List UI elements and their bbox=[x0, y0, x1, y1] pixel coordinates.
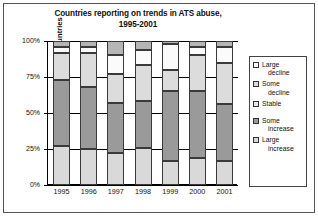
bar-series-group: 1995199619971998199920002001 bbox=[48, 41, 238, 185]
bar-segment[interactable] bbox=[216, 161, 233, 185]
legend-label-line-2: increase bbox=[262, 145, 306, 153]
bar-segment[interactable] bbox=[107, 103, 124, 153]
legend-swatch-icon bbox=[253, 101, 259, 107]
legend-item[interactable]: Someincrease bbox=[253, 117, 306, 133]
bar-column[interactable]: 1998 bbox=[135, 41, 152, 185]
bar-segment[interactable] bbox=[216, 47, 233, 63]
bar-segment[interactable] bbox=[135, 148, 152, 185]
legend-label: Large bbox=[262, 136, 279, 143]
bar-segment[interactable] bbox=[53, 80, 70, 146]
legend-label-line-2: decline bbox=[262, 89, 306, 97]
legend-item[interactable]: Largedecline bbox=[253, 61, 306, 77]
bar-segment[interactable] bbox=[189, 41, 206, 47]
bar-segment[interactable] bbox=[135, 41, 152, 50]
legend-label-line-2: decline bbox=[262, 69, 306, 77]
bar-segment[interactable] bbox=[135, 65, 152, 101]
bar-segment[interactable] bbox=[80, 149, 97, 185]
legend-label: Stable bbox=[262, 100, 281, 107]
legend-label-line-2: increase bbox=[262, 125, 306, 133]
y-axis-tick-label: 75% bbox=[26, 73, 40, 80]
legend-item[interactable]: Stable bbox=[253, 100, 306, 108]
bar-segment[interactable] bbox=[216, 63, 233, 105]
legend-label: Large bbox=[262, 61, 279, 68]
bar-segment[interactable] bbox=[53, 146, 70, 185]
legend-swatch-icon bbox=[253, 81, 259, 87]
x-axis-tick-label: 1995 bbox=[53, 187, 70, 196]
plot-area: 0%25%50%75%100% 199519961997199819992000… bbox=[47, 41, 237, 185]
y-axis-tick-label: 50% bbox=[26, 109, 40, 116]
bar-column[interactable]: 1999 bbox=[162, 41, 179, 185]
legend-label: Some bbox=[262, 80, 280, 87]
bar-segment[interactable] bbox=[107, 74, 124, 103]
x-axis-tick-label: 2000 bbox=[189, 187, 206, 196]
chart-figure: Countries reporting on trends in ATS abu… bbox=[0, 0, 318, 216]
bar-segment[interactable] bbox=[189, 158, 206, 185]
legend-swatch-icon bbox=[253, 118, 259, 124]
bar-column[interactable]: 2000 bbox=[189, 41, 206, 185]
x-axis-tick-label: 1998 bbox=[135, 187, 152, 196]
bar-segment[interactable] bbox=[107, 153, 124, 185]
bar-segment[interactable] bbox=[53, 41, 70, 47]
bar-segment[interactable] bbox=[189, 55, 206, 91]
bar-segment[interactable] bbox=[107, 55, 124, 74]
bar-segment[interactable] bbox=[135, 101, 152, 147]
legend-swatch-icon bbox=[253, 137, 259, 143]
plot-wrapper: Proportion of countries 0%25%50%75%100% … bbox=[47, 41, 237, 185]
bar-segment[interactable] bbox=[189, 47, 206, 56]
y-axis-tick-label: 0% bbox=[30, 181, 40, 188]
bar-segment[interactable] bbox=[53, 47, 70, 53]
x-axis-tick-label: 2001 bbox=[216, 187, 233, 196]
y-axis-tick-label: 25% bbox=[26, 145, 40, 152]
bar-segment[interactable] bbox=[80, 53, 97, 88]
bar-segment[interactable] bbox=[80, 87, 97, 149]
bar-segment[interactable] bbox=[80, 41, 97, 47]
x-axis-tick-label: 1997 bbox=[107, 187, 124, 196]
y-axis-tick-label: 100% bbox=[22, 37, 40, 44]
x-axis-tick-label: 1999 bbox=[162, 187, 179, 196]
bar-segment[interactable] bbox=[162, 41, 179, 44]
bar-segment[interactable] bbox=[162, 161, 179, 185]
bar-segment[interactable] bbox=[162, 70, 179, 92]
bar-segment[interactable] bbox=[216, 41, 233, 47]
y-axis-tick: 0% bbox=[44, 185, 49, 186]
bar-segment[interactable] bbox=[135, 50, 152, 66]
bar-segment[interactable] bbox=[107, 41, 124, 55]
gridline bbox=[48, 185, 238, 186]
chart-legend: LargedeclineSomedeclineStableSomeincreas… bbox=[249, 56, 307, 187]
bar-segment[interactable] bbox=[162, 44, 179, 70]
bar-segment[interactable] bbox=[189, 91, 206, 157]
bar-column[interactable]: 1996 bbox=[80, 41, 97, 185]
bar-segment[interactable] bbox=[53, 53, 70, 80]
chart-title-line-1: Countries reporting on trends in ATS abu… bbox=[54, 9, 221, 18]
bar-column[interactable]: 2001 bbox=[216, 41, 233, 185]
bar-segment[interactable] bbox=[162, 91, 179, 160]
bar-column[interactable]: 1997 bbox=[107, 41, 124, 185]
bar-segment[interactable] bbox=[216, 104, 233, 160]
legend-swatch-icon bbox=[253, 62, 259, 68]
bar-column[interactable]: 1995 bbox=[53, 41, 70, 185]
bar-segment[interactable] bbox=[80, 47, 97, 53]
legend-item[interactable]: Largeincrease bbox=[253, 136, 306, 152]
x-axis-tick-label: 1996 bbox=[80, 187, 97, 196]
legend-label: Some bbox=[262, 117, 280, 124]
legend-item[interactable]: Somedecline bbox=[253, 80, 306, 96]
